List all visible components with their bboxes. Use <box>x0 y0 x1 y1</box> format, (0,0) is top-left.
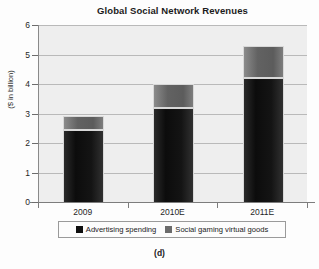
y-tick-label-1: 1 <box>14 168 30 178</box>
y-tick-label-4: 4 <box>14 79 30 89</box>
y-tick-label-0: 0 <box>14 197 30 207</box>
bar-group-2010E[interactable] <box>153 84 194 202</box>
figure-panel: Global Social Network Revenues ($ in bil… <box>0 0 319 269</box>
bar-group-2011E[interactable] <box>243 46 284 202</box>
x-tick-mark-1 <box>128 202 129 208</box>
x-tick-mark-0 <box>38 202 39 208</box>
chart-title: Global Social Network Revenues <box>38 5 307 16</box>
bar-segment-gaming-2010E[interactable] <box>153 84 194 108</box>
y-tick-label-5: 5 <box>14 50 30 60</box>
y-tick-mark-4 <box>32 84 38 85</box>
legend-entry-social-gaming-virtual-goods: Social gaming virtual goods <box>165 225 268 234</box>
y-tick-mark-3 <box>32 114 38 115</box>
bar-segment-advertising-2009[interactable] <box>63 130 104 202</box>
y-tick-label-6: 6 <box>14 20 30 30</box>
bar-segment-advertising-2011E[interactable] <box>243 78 284 202</box>
y-tick-label-2: 2 <box>14 138 30 148</box>
bar-group-2009[interactable] <box>63 116 104 202</box>
y-tick-mark-1 <box>32 173 38 174</box>
x-tick-label-2011E: 2011E <box>227 207 297 217</box>
figure-caption: (d) <box>0 248 319 258</box>
y-tick-mark-5 <box>32 55 38 56</box>
gridline-6 <box>39 25 307 26</box>
legend-entry-advertising-spending: Advertising spending <box>76 225 157 234</box>
bar-segment-advertising-2010E[interactable] <box>153 108 194 202</box>
x-tick-mark-3 <box>307 202 308 208</box>
y-tick-mark-6 <box>32 25 38 26</box>
bar-segment-gaming-2011E[interactable] <box>243 46 284 78</box>
legend-swatch-icon-advertising <box>76 226 83 233</box>
x-tick-label-2010E: 2010E <box>138 207 208 217</box>
y-tick-label-3: 3 <box>14 109 30 119</box>
legend-label-gaming: Social gaming virtual goods <box>175 225 268 234</box>
x-tick-mark-2 <box>217 202 218 208</box>
legend-label-advertising: Advertising spending <box>86 225 157 234</box>
x-tick-label-2009: 2009 <box>48 207 118 217</box>
legend-swatch-icon-gaming <box>165 226 172 233</box>
y-tick-mark-2 <box>32 143 38 144</box>
x-axis-line <box>30 202 315 203</box>
chart-legend: Advertising spending Social gaming virtu… <box>58 221 286 238</box>
bar-segment-gaming-2009[interactable] <box>63 116 104 130</box>
plot-area <box>38 25 307 202</box>
